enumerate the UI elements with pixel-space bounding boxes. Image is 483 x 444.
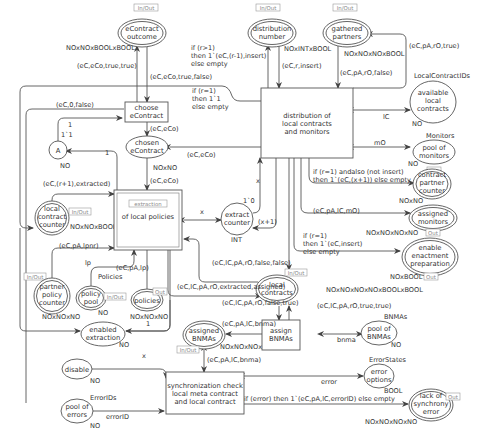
type-lack-of-synchrony-error: NOxNOxNOxNO [365,418,417,426]
svg-text:of local policies: of local policies [122,213,175,221]
inscription-a7-line2: then 1`1 [192,95,221,103]
svg-text:distribution: distribution [253,25,292,33]
svg-text:In/Out: In/Out [337,5,354,11]
svg-text:error: error [423,408,440,416]
inscription-a3-line2: then 1`(eC,(r-1),insert) [191,52,266,60]
transition-choose-econtract[interactable]: choose eContract [125,102,168,122]
place-chosen-econtract[interactable]: chosen eContract [126,136,168,158]
place-pool-of-errors[interactable]: pool of errors [61,399,93,423]
place-gathered-partners[interactable]: In/Out gathered partners [323,4,371,47]
inscription-a15-line2: then 1`(eC,(x+1)) else empty [313,176,411,184]
place-error-options[interactable]: error options [364,364,394,388]
svg-text:In/Out: In/Out [260,5,277,11]
svg-text:distribution of: distribution of [283,112,331,120]
inscription-a10: (eC,eCo) [150,125,179,133]
svg-text:lack of: lack of [420,392,443,400]
inscription-a33: 1 [146,320,150,328]
type-error-options: BOOL [384,387,403,395]
svg-text:monitors: monitors [419,152,450,160]
svg-text:synchrony: synchrony [413,400,448,408]
svg-text:errors: errors [67,411,87,419]
inscription-a26: (eC,lC,pA,rO,false,false) [212,259,291,267]
inscription-a6: (eC,pA,rO,true) [409,42,459,50]
inscription-a30: (eC,pA,lC,bnma) [222,320,276,328]
initial-marking-a: 1`1 [61,131,73,139]
svg-text:contract: contract [418,171,447,179]
svg-text:available: available [418,89,449,97]
type-gathered-partners: NOxNOxNOxBOOL [344,50,405,58]
svg-text:Out: Out [428,230,438,236]
svg-text:assigned: assigned [189,327,219,335]
inscription-a31: bnma [337,336,356,344]
svg-text:preparation: preparation [410,260,450,268]
place-assigned-bnmas[interactable]: assigned BNMAs In/Out [177,321,225,353]
inscription-a1: (eC,eCo,true,true) [77,62,137,70]
svg-text:In/Out: In/Out [138,5,155,11]
svg-text:In/Out: In/Out [180,347,197,353]
svg-text:choose: choose [134,104,158,112]
place-partner-policy-counter[interactable]: In/Out partner policy counter [24,273,70,314]
place-policies[interactable]: policies Out [131,288,167,311]
svg-text:contracts: contracts [417,105,449,113]
svg-text:monitors: monitors [418,218,449,226]
colorset-local-contract-ids: LocalContractIDs [414,72,470,80]
inscription-a2: (eC,eCo,true,false) [150,73,212,81]
inscription-a5: (eC,pA,rO,false) [340,69,392,77]
place-econtract-outcome[interactable]: In/Out eContract outcome [118,4,166,47]
place-available-local-contracts[interactable]: available local contracts [410,81,456,123]
svg-text:BNMAs: BNMAs [367,333,391,341]
transition-sync-check[interactable]: synchronization check local meta contrac… [166,372,244,414]
svg-text:Out: Out [426,274,436,280]
colorset-error-ids: ErrorIDs [90,394,117,402]
type-enabled-extraction: NO [119,341,129,349]
svg-text:partners: partners [333,33,362,41]
place-a[interactable]: A [49,141,67,159]
inscription-a3-line3: else empty [191,60,228,68]
inscription-a23: (eC,pA,lpnr) [59,242,99,250]
svg-text:counter: counter [39,221,65,229]
inscription-a27: (eC,lC,pA,rO,extracted,assigned) [177,283,285,291]
place-policy-pool[interactable]: policy pool In/Out [76,286,126,310]
inscription-a15-line1: if (r=1) andalso (not insert) [313,168,404,176]
petri-net-diagram: In/Out eContract outcome NOxNOxBOOLxBOOL… [0,0,483,444]
inscription-a36: error [321,378,337,386]
svg-text:number: number [259,33,286,41]
place-pool-of-monitors[interactable]: pool of monitors [413,140,455,164]
transition-extraction[interactable]: extraction of local policies [114,190,182,250]
type-pool-of-monitors: NO [408,160,418,168]
svg-text:gathered: gathered [332,25,363,33]
place-distribution-number[interactable]: In/Out distribution number [248,4,296,47]
type-enable-enactment-preparation: NOxBOOL [390,273,423,281]
type-pool-of-errors: NO [90,422,100,430]
inscription-a18: 1 [105,149,109,157]
svg-text:Out: Out [155,289,165,295]
type-disable: NO [90,377,100,385]
svg-text:pool of: pool of [422,144,446,152]
svg-text:A: A [56,147,61,155]
inscription-a13: lC [383,113,390,121]
type-available-local-contracts: NO [412,120,422,128]
svg-text:policy: policy [81,290,101,298]
inscription-a29: (eC,lC,pA,rO,true,true) [317,302,391,310]
inscription-a7-line3: else empty [192,103,229,111]
svg-text:partner: partner [39,283,64,291]
place-disable[interactable]: disable [62,359,92,379]
inscription-a25: (eC,pA,lp) [116,264,149,272]
place-extract-counter[interactable]: extract counter [221,203,253,235]
svg-text:local meta contract: local meta contract [172,390,238,398]
inscription-a28: (eC,lC,pA,rO,false,true) [222,299,299,307]
svg-text:contract: contract [38,213,67,221]
svg-text:extraction: extraction [134,201,161,207]
inscription-a21: x [256,177,260,185]
svg-text:enabled: enabled [89,326,116,334]
svg-text:eContract: eContract [130,147,164,155]
arc-a34 [90,369,166,378]
svg-text:and monitors: and monitors [284,128,330,136]
transition-distribution[interactable]: distribution of local contracts and moni… [261,88,353,158]
place-contract-partner-counter[interactable]: Out contract partner counter [413,167,451,199]
place-lack-of-synchrony-error[interactable]: lack of synchrony error Out [409,389,460,421]
inscription-a16: (eC,pA,lC,mO) [313,207,360,215]
type-chosen-econtract: NOxNO [153,164,177,172]
type-a: NO [60,162,70,170]
inscription-a24: lp [85,259,91,267]
